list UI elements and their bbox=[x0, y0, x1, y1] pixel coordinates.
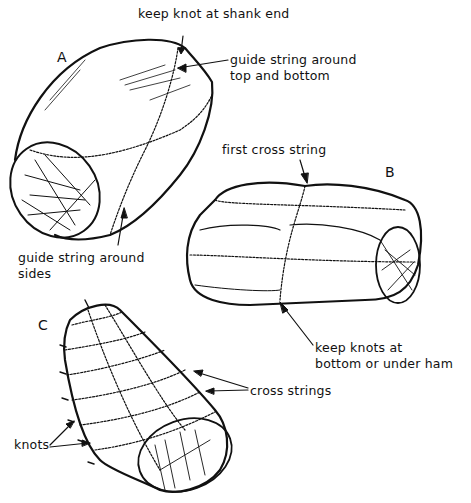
annotation-knots: knots bbox=[14, 437, 49, 452]
ham-c-drawing bbox=[50, 300, 248, 503]
ham-a-drawing bbox=[0, 36, 228, 255]
annotation-guide-sides-line2: sides bbox=[18, 266, 51, 281]
annotation-first-cross-string: first cross string bbox=[222, 142, 326, 157]
ham-tying-diagram: A B C keep knot at shank end guide strin… bbox=[0, 0, 471, 503]
ham-b-drawing bbox=[187, 160, 421, 345]
annotation-keep-knots-line1: keep knots at bbox=[315, 340, 402, 355]
annotation-guide-top-line2: top and bottom bbox=[230, 68, 330, 83]
annotation-guide-top-line1: guide string around bbox=[230, 52, 357, 67]
panel-label-b: B bbox=[385, 165, 395, 180]
annotation-keep-knot-shank: keep knot at shank end bbox=[138, 6, 289, 21]
annotation-keep-knots-line2: bottom or under ham bbox=[315, 356, 453, 371]
annotation-guide-sides-line1: guide string around bbox=[18, 250, 145, 265]
panel-label-a: A bbox=[57, 50, 67, 65]
annotation-cross-strings: cross strings bbox=[250, 383, 331, 398]
panel-label-c: C bbox=[38, 318, 48, 333]
